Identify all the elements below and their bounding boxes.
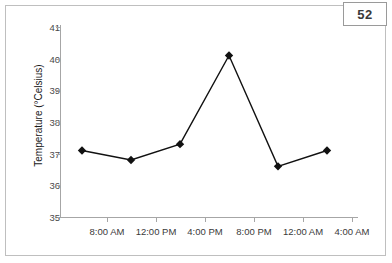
page-frame <box>5 5 386 256</box>
y-tick-mark <box>56 185 60 186</box>
y-tick-mark <box>56 122 60 123</box>
x-tick-mark <box>352 218 353 222</box>
y-tick-mark <box>56 27 60 28</box>
chart-screenshot: 52 Temperature (°Celsius) 41 40 39 38 37… <box>0 0 392 263</box>
x-axis-line <box>59 217 358 218</box>
x-tick-mark <box>107 218 108 222</box>
x-tick-mark <box>303 218 304 222</box>
x-tick-mark <box>156 218 157 222</box>
x-tick-label: 4:00 AM <box>316 226 388 237</box>
y-tick-label: 35 <box>38 212 60 223</box>
page-number-badge: 52 <box>343 2 387 26</box>
x-tick-mark <box>205 218 206 222</box>
y-tick-mark <box>56 154 60 155</box>
x-tick-mark <box>254 218 255 222</box>
y-axis-line <box>60 25 61 218</box>
y-tick-mark <box>56 59 60 60</box>
y-tick-mark <box>56 90 60 91</box>
